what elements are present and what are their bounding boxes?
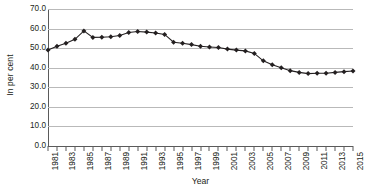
x-axis-tick [344,146,345,151]
x-axis-tick [65,146,66,151]
y-axis-tick-label: 50.0 [18,44,46,52]
x-axis-tick [48,146,49,151]
data-point-marker [108,34,113,39]
x-axis-tick [146,146,147,151]
x-axis-tick [191,146,192,151]
x-axis-title: Year [48,176,353,186]
x-axis-tick [209,146,210,151]
x-axis-tick-label: 2013 [339,152,348,170]
data-point-marker [297,70,302,75]
x-axis-tick [164,146,165,151]
x-axis-tick [56,146,57,151]
data-point-marker [324,71,329,76]
data-point-marker [279,65,284,70]
x-axis-tick-label: 2001 [231,152,240,170]
x-axis-tick [137,146,138,151]
x-axis-tick [236,146,237,151]
x-axis-tick [245,146,246,151]
y-axis-title: In per cent [0,0,20,150]
y-axis-tick-label: 10.0 [18,122,46,130]
data-point-marker [189,42,194,47]
data-point-marker [207,44,212,49]
x-axis-tick [326,146,327,151]
x-axis-tick [155,146,156,151]
y-axis-tick-label: 0.0 [18,142,46,150]
y-axis-tick-label: 40.0 [18,64,46,72]
plot-area [48,9,353,146]
x-axis-tick [317,146,318,151]
x-axis-tick [200,146,201,151]
x-axis-tick-label: 1993 [159,152,168,170]
x-axis-tick [218,146,219,151]
data-point-marker [288,68,293,73]
data-point-marker [243,48,248,53]
x-axis-tick [83,146,84,151]
x-axis-tick-label: 2009 [303,152,312,170]
x-axis-tick [353,146,354,151]
data-point-marker [315,71,320,76]
data-point-marker [180,41,185,46]
data-point-marker [225,47,230,52]
x-axis-tick-label: 1991 [141,152,150,170]
x-axis-tick [92,146,93,151]
x-axis-tick [335,146,336,151]
x-axis-tick-label: 2011 [321,152,330,170]
data-point-marker [306,71,311,76]
x-axis-tick [308,146,309,151]
x-axis-tick-label: 2007 [285,152,294,170]
data-point-marker [216,45,221,50]
x-axis-tick [272,146,273,151]
x-axis-tick-label: 1981 [52,152,61,170]
x-axis-tick [101,146,102,151]
x-axis-tick-label: 2015 [357,152,365,170]
x-axis-tick [281,146,282,151]
x-axis-tick [299,146,300,151]
y-axis-tick-label: 30.0 [18,83,46,91]
x-axis-tick-label: 1995 [177,152,186,170]
y-axis-title-label: In per cent [5,54,15,95]
data-point-marker [270,62,275,67]
x-axis-tick-label: 1999 [213,152,222,170]
data-point-marker [117,33,122,38]
x-axis-tick [254,146,255,151]
x-axis-tick [263,146,264,151]
data-point-marker [99,35,104,40]
x-axis-tick [110,146,111,151]
x-axis-tick [74,146,75,151]
data-point-marker [54,44,59,49]
data-point-marker [342,69,347,74]
y-axis-tick-label: 70.0 [18,5,46,13]
data-point-marker [153,31,158,36]
y-axis-tick-labels: 70.060.050.040.030.020.010.00.0 [18,9,46,146]
x-axis-tick [290,146,291,151]
data-point-marker [351,69,356,74]
data-point-marker [234,48,239,53]
x-axis-tick-label: 2005 [267,152,276,170]
x-axis-tick-label: 1983 [69,152,78,170]
data-point-marker [144,30,149,35]
x-axis-tick-labels: 1981198319851987198919911993199519971999… [48,152,353,178]
x-axis-tick-label: 2003 [249,152,258,170]
x-axis-tick [227,146,228,151]
y-axis-tick-label: 60.0 [18,24,46,32]
data-point-marker [46,48,51,53]
x-axis-tick [119,146,120,151]
data-point-marker [126,30,131,35]
x-axis-tick-label: 1997 [195,152,204,170]
x-axis-tick-label: 1987 [105,152,114,170]
data-series-line [48,9,353,146]
data-point-marker [198,44,203,49]
x-axis-tick-label: 1985 [87,152,96,170]
x-axis-tick-label: 1989 [123,152,132,170]
x-axis-tick [128,146,129,151]
x-axis-tick [182,146,183,151]
x-axis-tick [173,146,174,151]
data-point-marker [63,41,68,46]
data-point-marker [135,29,140,34]
data-point-marker [333,70,338,75]
y-axis-tick-label: 20.0 [18,103,46,111]
